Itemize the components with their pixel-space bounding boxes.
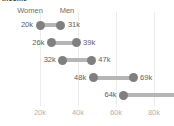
legend-label-women: Women	[17, 6, 43, 15]
x-axis-tick-20k: 20k	[34, 108, 46, 117]
chart-row: 64k	[0, 88, 174, 102]
chart-row: 26k39k	[0, 36, 174, 50]
value-label-men: 69k	[140, 73, 152, 82]
value-label-men: 31k	[68, 20, 80, 29]
chart-row: 32k47k	[0, 53, 174, 67]
data-point-men	[72, 38, 81, 47]
value-label-men: 39k	[83, 38, 95, 47]
value-label-men: 47k	[98, 55, 110, 64]
chart-row: 20k31k	[0, 18, 174, 32]
data-point-men	[129, 73, 138, 82]
value-label-women: 26k	[32, 38, 44, 47]
value-label-women: 48k	[74, 73, 86, 82]
data-point-men	[87, 56, 96, 65]
plot-area: WomenMen20k31k26k39k32k47k48k69k64k20k40…	[0, 0, 174, 126]
data-point-women	[89, 73, 98, 82]
legend-label-men: Men	[60, 6, 75, 15]
range-bar	[124, 93, 174, 97]
data-point-men	[56, 21, 65, 30]
data-point-women	[58, 56, 67, 65]
value-label-women: 20k	[21, 20, 33, 29]
x-axis-tick-80k: 80k	[148, 108, 160, 117]
data-point-women	[119, 91, 128, 100]
range-bar	[93, 76, 133, 80]
x-axis-tick-40k: 40k	[72, 108, 84, 117]
data-point-women	[36, 21, 45, 30]
chart-row: 48k69k	[0, 71, 174, 85]
x-axis-tick-60k: 60k	[110, 108, 122, 117]
dumbbell-chart: Income WomenMen20k31k26k39k32k47k48k69k6…	[0, 0, 174, 126]
value-label-women: 64k	[105, 90, 117, 99]
data-point-women	[47, 38, 56, 47]
value-label-women: 32k	[44, 55, 56, 64]
